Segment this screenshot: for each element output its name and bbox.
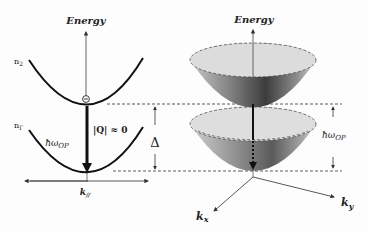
right-panel: Energy ħωOP kx ky	[190, 14, 355, 224]
kx-axis	[214, 177, 253, 211]
left-panel: Energy n2 nΓ ħωOP |Q| ≈ 0 k//	[14, 15, 148, 198]
delta-label: Δ	[150, 135, 159, 150]
lower-band-label: nΓ	[14, 121, 23, 131]
band-diagram-figure: Energy n2 nΓ ħωOP |Q| ≈ 0 k//	[0, 0, 367, 233]
diagram-canvas: Energy n2 nΓ ħωOP |Q| ≈ 0 k//	[0, 0, 367, 233]
right-phonon-label: ħωOP	[322, 130, 346, 142]
kx-label: kx	[196, 210, 209, 224]
upper-band-label: n2	[14, 57, 23, 67]
k-parallel-label: k//	[80, 187, 91, 198]
ky-label: ky	[341, 196, 355, 211]
left-transition-label: ħωOP	[45, 138, 69, 150]
ky-axis	[253, 177, 334, 197]
right-energy-label: Energy	[233, 14, 275, 25]
left-energy-label: Energy	[65, 15, 107, 26]
momentum-label: |Q| ≈ 0	[93, 125, 127, 136]
